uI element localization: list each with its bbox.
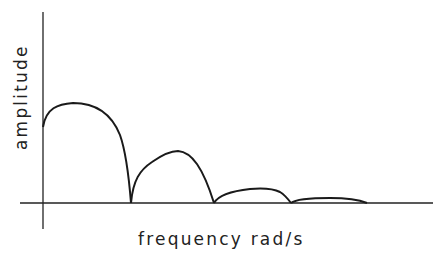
x-axis-label: frequency rad/s (138, 229, 304, 249)
spectrum-lobe-4 (291, 198, 367, 203)
y-axis-label: amplitude (11, 44, 31, 150)
spectrum-lobe-1 (43, 103, 131, 203)
spectrum-lobe-2 (131, 151, 214, 203)
spectrum-lobe-3 (214, 188, 291, 203)
amplitude-spectrum-chart: amplitude frequency rad/s (0, 0, 447, 257)
